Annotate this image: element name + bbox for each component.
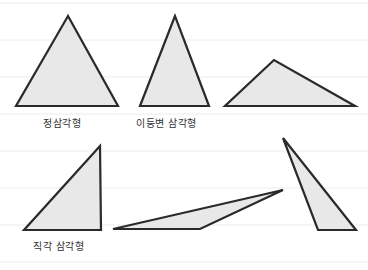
equilateral-triangle	[16, 16, 118, 106]
label-isosceles-triangle: 이등변 삼각형	[136, 115, 197, 130]
triangle-diagram	[0, 0, 368, 270]
obtuse-flat-triangle	[113, 190, 283, 229]
obtuse-wide-triangle	[225, 60, 355, 106]
isosceles-triangle	[140, 16, 209, 106]
obtuse-tall-triangle	[283, 138, 356, 230]
label-equilateral-triangle: 정삼각형	[43, 115, 81, 130]
label-right-triangle: 직각 삼각형	[33, 238, 84, 253]
